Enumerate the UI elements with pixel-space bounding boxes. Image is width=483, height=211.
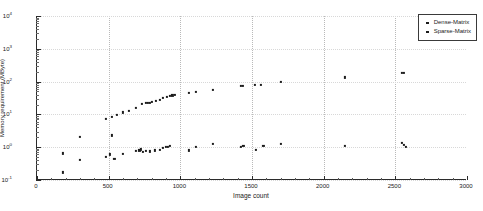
data-point: [174, 94, 176, 96]
x-minor-tick: [166, 178, 167, 180]
x-axis-title: Image count: [36, 192, 466, 199]
x-minor-tick: [94, 178, 95, 180]
y-minor-tick: [36, 119, 39, 120]
data-point: [188, 92, 190, 94]
x-minor-tick: [266, 178, 267, 180]
y-minor-tick: [36, 83, 39, 84]
data-point: [188, 149, 190, 151]
x-minor-tick: [281, 178, 282, 180]
y-tick: [36, 180, 41, 181]
x-minor-tick: [223, 178, 224, 180]
y-minor-tick: [36, 85, 39, 86]
data-point: [149, 150, 151, 152]
data-point: [212, 143, 214, 145]
data-point: [145, 150, 147, 152]
x-tick: [395, 176, 396, 180]
y-minor-tick: [36, 62, 39, 63]
x-minor-tick: [309, 178, 310, 180]
y-minor-tick: [36, 54, 39, 55]
x-minor-tick: [438, 178, 439, 180]
chart-legend: Dense-Matrix Sparse-Matrix: [418, 14, 477, 41]
memory-requirement-scatter-chart: 050010001500200025003000 10-110010110210…: [0, 0, 483, 211]
data-point: [195, 91, 197, 93]
data-point: [162, 97, 164, 99]
y-tick-label: 10-1: [1, 177, 12, 183]
y-tick-label: 103: [3, 46, 12, 52]
y-minor-tick: [36, 150, 39, 151]
data-point: [280, 81, 282, 83]
legend-item-sparse-matrix: Sparse-Matrix: [422, 27, 471, 36]
y-minor-tick: [36, 66, 39, 67]
y-minor-tick: [36, 33, 39, 34]
x-tick: [252, 176, 253, 180]
data-point: [110, 115, 112, 117]
data-point: [151, 101, 153, 103]
data-point: [405, 145, 407, 147]
x-minor-tick: [424, 178, 425, 180]
data-point: [62, 152, 64, 154]
data-point: [242, 85, 244, 87]
x-minor-tick: [152, 178, 153, 180]
x-minor-tick: [137, 178, 138, 180]
data-point: [155, 100, 157, 102]
data-point: [141, 103, 143, 105]
data-point: [158, 149, 160, 151]
x-tick: [324, 176, 325, 180]
y-minor-tick: [36, 170, 39, 171]
y-minor-tick: [36, 39, 39, 40]
x-tick: [467, 176, 468, 180]
x-tick-label: 2000: [316, 183, 329, 189]
gridline-y: [37, 114, 466, 115]
data-point: [158, 99, 160, 101]
data-point: [162, 147, 164, 149]
data-point: [212, 89, 214, 91]
legend-item-dense-matrix: Dense-Matrix: [422, 18, 471, 27]
y-minor-tick: [36, 152, 39, 153]
y-minor-tick: [36, 99, 39, 100]
gridline-y: [37, 82, 466, 83]
x-minor-tick: [80, 178, 81, 180]
data-point: [242, 145, 244, 147]
y-tick-label: 104: [3, 13, 12, 19]
y-minor-tick: [36, 105, 39, 106]
gridline-x-1500: [252, 16, 253, 179]
x-minor-tick: [410, 178, 411, 180]
y-minor-tick: [36, 72, 39, 73]
y-minor-tick: [36, 149, 39, 150]
data-point: [62, 171, 64, 173]
data-point: [403, 72, 405, 74]
gridline-y: [37, 49, 466, 50]
data-point: [344, 76, 346, 78]
data-point: [153, 149, 155, 151]
data-point: [105, 118, 107, 120]
y-minor-tick: [36, 116, 39, 117]
data-point: [195, 145, 197, 147]
data-point: [105, 155, 107, 157]
y-minor-tick: [36, 122, 39, 123]
y-minor-tick: [36, 56, 39, 57]
data-point: [122, 153, 124, 155]
x-tick-label: 1000: [173, 183, 186, 189]
x-minor-tick: [338, 178, 339, 180]
y-axis-title: Memory requirement (MByte): [0, 59, 5, 137]
data-point: [255, 148, 257, 150]
gridline-x-1000: [180, 16, 181, 179]
data-point: [166, 96, 168, 98]
data-point: [344, 145, 346, 147]
x-tick-label: 1500: [244, 183, 257, 189]
x-minor-tick: [381, 178, 382, 180]
x-minor-tick: [295, 178, 296, 180]
legend-label: Sparse-Matrix: [434, 27, 471, 36]
x-minor-tick: [66, 178, 67, 180]
y-minor-tick: [36, 59, 39, 60]
data-point: [142, 151, 144, 153]
plot-area: [36, 16, 466, 180]
y-minor-tick: [36, 132, 39, 133]
x-tick-label: 3000: [459, 183, 472, 189]
data-point: [262, 145, 264, 147]
y-minor-tick: [36, 164, 39, 165]
x-tick-label: 2500: [388, 183, 401, 189]
legend-marker-icon: [426, 22, 428, 24]
gridline-y: [37, 147, 466, 148]
x-minor-tick: [352, 178, 353, 180]
